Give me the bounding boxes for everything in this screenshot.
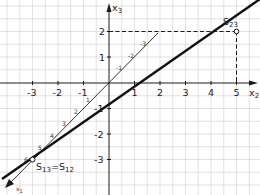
x3-axis-label: x3: [112, 2, 122, 15]
svg-text:2: 2: [74, 108, 78, 115]
x2-axis-label: x2: [249, 87, 259, 100]
svg-text:-3: -3: [94, 154, 103, 165]
svg-text:-3: -3: [27, 87, 36, 98]
svg-text:-3: -3: [140, 40, 146, 47]
svg-text:3: 3: [62, 120, 66, 127]
trace-line: [2, 0, 260, 179]
svg-text:5: 5: [234, 87, 240, 98]
x1-tick-labels: -1 -2 -3 1 2 3 4 5 6: [24, 40, 146, 163]
label-s23: S23: [223, 16, 238, 29]
point-s13-s12: [30, 157, 35, 162]
svg-text:1: 1: [99, 52, 105, 63]
svg-text:-2: -2: [94, 129, 103, 140]
coordinate-diagram: -3 -2 -1 1 2 3 4 5 x2 2 1 -1 -2 -3 x3 -1…: [0, 0, 260, 195]
x2-axis: [0, 81, 258, 86]
svg-text:-2: -2: [128, 52, 134, 59]
svg-text:3: 3: [183, 87, 189, 98]
svg-text:2: 2: [99, 26, 105, 37]
svg-text:4: 4: [208, 87, 214, 98]
x1-axis: [5, 33, 158, 188]
svg-text:-2: -2: [53, 87, 62, 98]
x1-axis-label: x1: [16, 185, 23, 194]
svg-text:5: 5: [38, 144, 42, 151]
svg-text:4: 4: [50, 132, 54, 139]
point-s23: [234, 29, 239, 34]
svg-text:1: 1: [86, 96, 90, 103]
svg-text:-1: -1: [116, 64, 122, 71]
svg-text:2: 2: [157, 87, 163, 98]
